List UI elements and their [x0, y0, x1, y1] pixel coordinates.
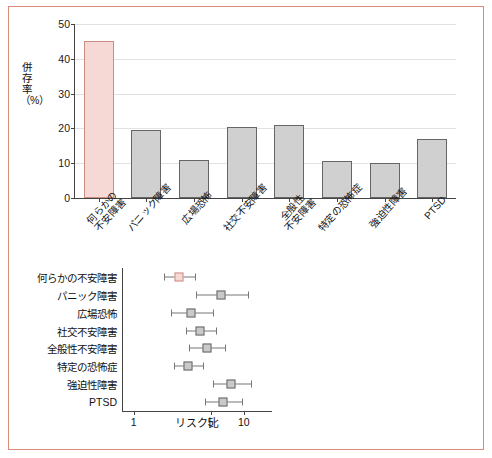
forest-plot-point-estimate — [186, 308, 195, 317]
forest-plot-row-label: 何らかの不安障害 — [37, 269, 117, 284]
forest-plot-row-label: 広場恐怖 — [77, 305, 117, 320]
confidence-interval-cap — [164, 273, 165, 280]
gridline — [75, 24, 456, 25]
figure-root: 併存率（%） 01020304050 何らかの 不安障害パニック障害広場恐怖社交… — [0, 0, 492, 458]
confidence-interval-cap — [203, 363, 204, 370]
bar-chart-y-axis-title: 併存率（%） — [20, 62, 34, 106]
y-tick-mark — [71, 198, 75, 199]
y-tick-mark — [71, 128, 75, 129]
confidence-interval-cap — [225, 345, 226, 352]
forest-plot-area: 1510何らかの不安障害パニック障害広場恐怖社交不安障害全般性不安障害特定の恐怖… — [122, 268, 272, 412]
forest-plot-point-estimate — [226, 380, 235, 389]
y-tick-label: 40 — [58, 53, 70, 65]
forest-plot-row-label: 社交不安障害 — [57, 323, 117, 338]
y-tick-mark — [71, 163, 75, 164]
forest-plot-point-estimate — [202, 344, 211, 353]
confidence-interval-cap — [213, 309, 214, 316]
confidence-interval-cap — [205, 399, 206, 406]
forest-plot-row-label: 強迫性障害 — [67, 377, 117, 392]
confidence-interval-cap — [248, 291, 249, 298]
forest-plot-row-label: 特定の恐怖症 — [57, 359, 117, 374]
y-tick-label: 30 — [58, 88, 70, 100]
confidence-interval-cap — [213, 381, 214, 388]
forest-plot-point-estimate — [196, 326, 205, 335]
forest-plot-panel: 1510何らかの不安障害パニック障害広場恐怖社交不安障害全般性不安障害特定の恐怖… — [18, 262, 470, 442]
bar-chart-panel: 併存率（%） 01020304050 何らかの 不安障害パニック障害広場恐怖社交… — [18, 14, 470, 254]
y-tick-label: 50 — [58, 18, 70, 30]
bar — [227, 127, 257, 198]
bar — [274, 125, 304, 198]
y-tick-mark — [71, 24, 75, 25]
gridline — [75, 59, 456, 60]
y-tick-mark — [71, 59, 75, 60]
confidence-interval-cap — [171, 309, 172, 316]
confidence-interval-cap — [196, 291, 197, 298]
forest-plot-x-axis-title: リスク比 — [122, 414, 272, 430]
y-tick-label: 10 — [58, 157, 70, 169]
forest-plot-point-estimate — [218, 398, 227, 407]
confidence-interval-cap — [195, 273, 196, 280]
y-tick-label: 20 — [58, 122, 70, 134]
forest-plot-row-label: PTSD — [89, 396, 117, 408]
confidence-interval-cap — [251, 381, 252, 388]
bar — [84, 41, 114, 198]
confidence-interval-cap — [189, 345, 190, 352]
forest-plot-point-estimate — [216, 290, 225, 299]
gridline — [75, 94, 456, 95]
y-tick-label: 0 — [64, 192, 70, 204]
y-tick-mark — [71, 94, 75, 95]
confidence-interval-cap — [186, 327, 187, 334]
forest-plot-row-label: パニック障害 — [57, 287, 117, 302]
confidence-interval-cap — [174, 363, 175, 370]
forest-plot-row-label: 全般性不安障害 — [47, 341, 117, 356]
forest-plot-point-estimate — [183, 362, 192, 371]
forest-plot-point-estimate — [175, 272, 184, 281]
bar-chart-plot-area: 01020304050 — [74, 24, 456, 199]
confidence-interval-cap — [242, 399, 243, 406]
confidence-interval-cap — [216, 327, 217, 334]
